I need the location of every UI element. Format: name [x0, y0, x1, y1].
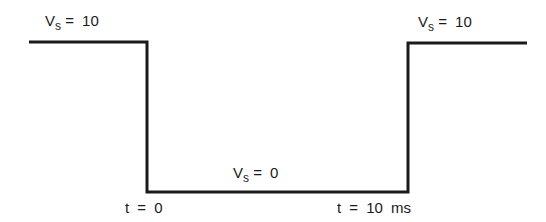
label-vs-10-right: Vs = 10	[418, 14, 472, 33]
label-t-10ms: t = 10 ms	[337, 200, 411, 215]
label-t-0: t = 0	[125, 200, 163, 215]
label-vs-10-left: Vs = 10	[45, 13, 99, 32]
waveform	[0, 0, 546, 222]
label-vs-0: Vs = 0	[233, 165, 278, 184]
